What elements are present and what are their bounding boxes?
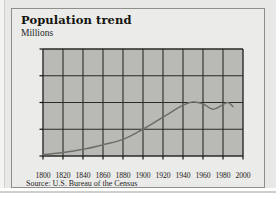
x-axis-tick-label: 1900 — [135, 171, 150, 180]
x-axis-tick-label: 1920 — [155, 171, 170, 180]
x-axis-tick-label: 1960 — [195, 171, 210, 180]
page-left-margin — [0, 0, 5, 193]
chart-card: Population trend Millions 01234 18001820… — [11, 8, 265, 188]
y-axis-tick-labels: 01234 — [12, 9, 32, 139]
plot-area — [32, 48, 252, 169]
x-axis-tick-label: 2000 — [235, 171, 250, 180]
page-bottom-rule — [0, 191, 276, 193]
source-note: Source: U.S. Bureau of the Census — [26, 179, 137, 188]
x-axis-tick-label: 1980 — [215, 171, 230, 180]
x-axis-tick-label: 1940 — [175, 171, 190, 180]
page-title: Population trend — [21, 13, 132, 27]
line-chart-svg — [32, 48, 252, 169]
figure-root: Population trend Millions 01234 18001820… — [0, 0, 276, 203]
